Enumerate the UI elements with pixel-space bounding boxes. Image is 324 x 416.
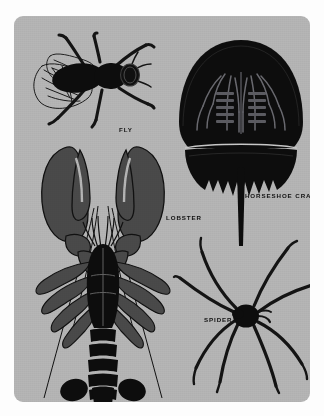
lobster-icon <box>28 136 178 402</box>
fly-icon <box>22 32 158 132</box>
illustration-plate: FLY <box>0 0 324 416</box>
figure-lobster <box>28 136 178 402</box>
label-horseshoe-crab: HORSESHOE CRAB <box>245 193 310 199</box>
figure-fly <box>22 32 158 132</box>
figure-spider <box>174 234 310 394</box>
label-spider: SPIDER <box>204 317 232 323</box>
lobster-claw-right <box>116 147 164 242</box>
label-fly: FLY <box>119 127 133 133</box>
plate-board: FLY <box>14 16 310 402</box>
lobster-claw-left <box>42 147 90 242</box>
label-lobster: LOBSTER <box>166 215 202 221</box>
spider-icon <box>174 234 310 394</box>
spider-abdomen <box>232 309 244 319</box>
